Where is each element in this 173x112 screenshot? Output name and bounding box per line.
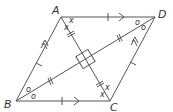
vertex-label-d: D xyxy=(158,8,166,21)
angle-mark-d-top: o xyxy=(135,18,140,27)
tick-mark-ab xyxy=(36,63,42,66)
double-arrow-mark-dc-2 xyxy=(131,40,137,46)
tick-mark-dc xyxy=(130,62,136,65)
vertex-label-a: A xyxy=(51,4,60,17)
vertex-label-b: B xyxy=(4,98,12,111)
diagram-canvas: x x x x o o o o A D B C xyxy=(0,0,173,112)
angle-mark-a-right: x xyxy=(68,16,74,25)
angle-mark-c-right: x xyxy=(104,83,110,92)
rhombus-diagram: x x x x o o o o A D B C xyxy=(0,0,173,112)
side-ab xyxy=(16,17,61,101)
diagonal-bd xyxy=(16,17,155,101)
side-dc xyxy=(110,17,155,101)
angle-mark-b-bottom: o xyxy=(31,92,36,101)
vertex-label-c: C xyxy=(110,101,118,112)
angle-mark-d-bottom: o xyxy=(141,23,146,32)
